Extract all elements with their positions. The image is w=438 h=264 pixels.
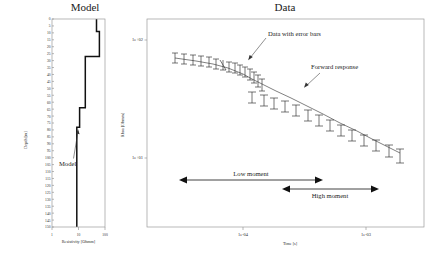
data-plot-frame [147,19,424,227]
data-y-axis-label: Rhoa [Ohmm] [120,112,125,137]
error-bar [260,95,268,106]
model-ytick-label: 5 [49,24,51,28]
figure-svg: 0 5 10 15 20 25 30 35 40 45 50 55 60 65 … [0,0,438,264]
model-ytick-label: 105 [45,163,51,167]
data-ytick-label: 1e+02 [132,37,143,42]
model-ytick-label: 25 [47,52,51,56]
data-errorbars-annotation: Data with error bars [248,30,321,60]
model-ytick-label: 125 [45,191,51,195]
forward-response-curve [175,58,400,153]
figure-canvas: Model Data [0,0,438,264]
model-ytick-label: 95 [47,149,51,153]
model-ytick-label: 80 [47,128,51,132]
model-ytick-label: 70 [47,115,51,119]
error-bar [348,130,356,141]
high-moment-data-series [248,92,404,163]
error-bar [270,98,278,109]
model-y-axis-label: Depth [m] [23,131,28,149]
model-ytick-label: 75 [47,121,51,125]
model-ytick-label: 40 [47,73,51,77]
model-xtick-label: 10 [77,233,81,237]
model-ytick-label: 110 [45,170,50,174]
model-ytick-label: 120 [45,184,51,188]
model-xtick-label: 1 [51,233,53,237]
model-ytick-label: 15 [47,38,51,42]
error-bar [360,135,368,146]
data-panel: 1e+02 1e+01 Rhoa [Ohmm] 1e-04 1e-03 Time… [120,19,424,246]
data-errorbars-label: Data with error bars [268,30,321,37]
model-ytick-label: 115 [45,177,50,181]
model-xtick-label: 100 [102,233,108,237]
forward-response-annotation: Forward response [304,63,358,88]
data-xtick-label: 1e-04 [238,232,249,237]
model-panel: 0 5 10 15 20 25 30 35 40 45 50 55 60 65 … [23,17,108,244]
model-ytick-label: 0 [49,17,51,21]
error-bar [242,67,248,77]
data-y-axis: 1e+02 1e+01 Rhoa [Ohmm] [120,37,147,160]
high-moment-range: High moment [282,186,379,199]
model-ytick-label: 30 [47,59,51,63]
model-ytick-label: 45 [47,80,51,84]
error-bar [304,110,312,121]
error-bar [247,69,253,80]
model-ytick-label: 20 [47,45,51,49]
error-bar [198,56,204,66]
model-ytick-label: 90 [47,142,51,146]
data-x-axis-label: Time [s] [283,241,298,246]
data-panel-title: Data [230,1,340,13]
low-moment-label: Low moment [233,170,269,177]
error-bar [248,92,256,103]
model-ytick-label: 50 [47,87,51,91]
low-moment-range: Low moment [179,170,323,183]
model-annotation-label: Model [59,160,76,167]
low-moment-data-series [172,53,265,91]
model-ytick-label: 135 [45,205,51,209]
high-moment-label: High moment [312,192,349,199]
model-ytick-label: 10 [47,31,51,35]
data-xtick-label: 1e-03 [361,232,372,237]
model-ytick-label: 55 [47,94,51,98]
error-bar [220,60,226,70]
error-bar [385,145,393,157]
data-x-axis: 1e-04 1e-03 Time [s] [238,227,372,246]
model-x-axis: 1 10 100 Resistivity [Ohmm] [51,227,108,244]
error-bar [281,101,289,112]
model-x-axis-label: Resistivity [Ohmm] [62,239,96,244]
model-ytick-label: 145 [45,219,51,223]
model-y-ticklabels: 0 5 10 15 20 25 30 35 40 45 50 55 60 65 … [45,17,51,229]
error-bar [206,57,212,67]
model-ytick-label: 65 [47,108,51,112]
error-bar [315,115,323,126]
model-ytick-label: 140 [45,212,51,216]
error-bar [326,120,334,131]
model-y-axis: 0 5 10 15 20 25 30 35 40 45 50 55 60 65 … [23,17,54,229]
model-plot-frame [52,19,105,227]
forward-response-label: Forward response [311,63,358,70]
data-ytick-label: 1e+01 [132,155,143,160]
error-bar [396,149,404,163]
error-bar [292,105,300,116]
model-ytick-label: 35 [47,66,51,70]
model-ytick-label: 60 [47,101,51,105]
error-bar [337,125,345,136]
model-ytick-label: 130 [45,198,51,202]
model-ytick-label: 85 [47,135,51,139]
model-ytick-label: 150 [45,225,51,229]
model-resistivity-curve [77,19,100,226]
error-bar [372,140,380,151]
error-bar [226,62,232,72]
model-ytick-label: 100 [45,156,51,160]
model-panel-title: Model [30,1,140,13]
